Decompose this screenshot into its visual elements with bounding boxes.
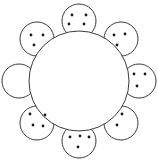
flower-diagram	[0, 0, 158, 161]
petal-s-dot-2	[79, 135, 82, 138]
petal-e-dot-2	[144, 73, 147, 76]
petal-sw-dot-1	[29, 113, 32, 116]
diagram-canvas	[0, 0, 158, 161]
petal-s-dot-1	[69, 136, 72, 139]
petal-n-dot-2	[85, 14, 88, 17]
petal-ne-dot-1	[113, 34, 116, 37]
petal-nw-dot-3	[33, 44, 36, 47]
petal-nw-dot-2	[42, 34, 45, 37]
petal-e-dot-1	[133, 73, 136, 76]
petal-se-dot-1	[121, 113, 124, 116]
petal-nw-dot-1	[30, 34, 33, 37]
petal-n-dot-1	[71, 14, 74, 17]
petal-sw-dot-3	[32, 124, 35, 127]
petal-sw-dot-4	[42, 125, 45, 128]
petal-e-dot-3	[136, 85, 139, 88]
petal-s-dot-3	[88, 136, 91, 139]
petal-n-dot-4	[83, 23, 86, 26]
petal-ne-dot-3	[116, 44, 119, 47]
petal-ne-dot-2	[124, 33, 127, 36]
petal-s-dot-4	[77, 146, 80, 149]
petal-se-dot-2	[116, 124, 119, 127]
petal-n-dot-3	[68, 23, 71, 26]
petal-sw-dot-2	[44, 114, 47, 117]
center-circle	[29, 31, 129, 131]
center-group	[29, 31, 129, 131]
